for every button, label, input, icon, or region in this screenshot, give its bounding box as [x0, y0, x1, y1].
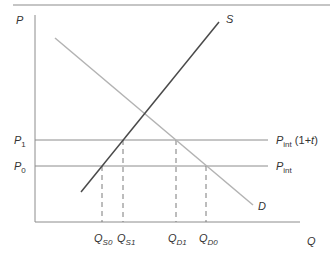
label-p0: P0	[14, 160, 26, 175]
supply-label: S	[226, 13, 234, 25]
label-qs1: QS1	[117, 232, 135, 247]
demand-curve	[55, 38, 253, 205]
y-axis-label: P	[16, 14, 24, 26]
label-qs0: QS0	[94, 232, 113, 247]
label-pint: Pint	[276, 160, 293, 175]
x-axis-label: Q	[307, 235, 316, 247]
label-pint-tariff: Pint (1+t)	[276, 134, 318, 149]
label-qd1: QD1	[168, 232, 187, 247]
demand-label: D	[258, 200, 266, 212]
label-p1: P1	[14, 134, 26, 149]
tariff-diagram: P Q D S P1 P0 Pint (1+t) Pint QS0 QS1 QD…	[0, 0, 330, 255]
label-qd0: QD0	[199, 232, 218, 247]
